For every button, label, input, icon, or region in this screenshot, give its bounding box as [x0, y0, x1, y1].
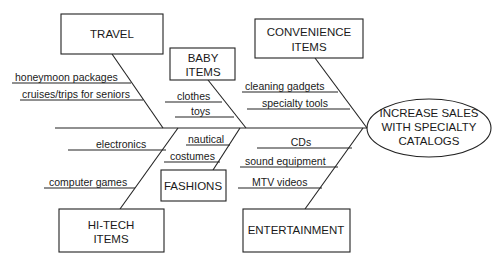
category-hi-tech-items: HI-TECH ITEMS electronics computer games [44, 128, 178, 252]
category-label-hi-tech-2: ITEMS [93, 233, 128, 245]
cause-label: CDs [291, 136, 311, 148]
category-label-fashions: FASHIONS [164, 180, 222, 192]
category-fashions: FASHIONS nautical costumes [161, 128, 240, 201]
category-travel: TRAVEL honeymoon packages cruises/trips … [12, 14, 163, 128]
cause-label: sound equipment [245, 155, 326, 167]
cause-label: honeymoon packages [15, 71, 118, 83]
bone-entertainment [305, 128, 363, 209]
category-label-travel: TRAVEL [90, 28, 134, 40]
cause-label: cleaning gadgets [245, 80, 324, 92]
category-label-convenience-2: ITEMS [291, 41, 326, 53]
category-convenience-items: CONVENIENCE ITEMS cleaning gadgets speci… [242, 19, 367, 128]
category-label-baby-items-1: BABY [188, 52, 219, 64]
effect-line-2: WITH SPECIALTY [382, 121, 477, 133]
cause-label: electronics [96, 138, 146, 150]
bone-baby-items [208, 80, 246, 128]
cause-label: computer games [49, 176, 127, 188]
cause-label: clothes [177, 90, 210, 102]
effect-head: INCREASE SALES WITH SPECIALTY CATALOGS [367, 99, 491, 157]
effect-line-3: CATALOGS [399, 135, 460, 147]
cause-label: costumes [170, 150, 215, 162]
bone-convenience-items [315, 58, 367, 128]
cause-label: nautical [188, 133, 224, 145]
category-label-hi-tech-1: HI-TECH [88, 219, 135, 231]
effect-line-1: INCREASE SALES [379, 107, 478, 119]
category-entertainment: ENTERTAINMENT CDs sound equipment MTV vi… [238, 128, 363, 252]
cause-label: toys [191, 105, 210, 117]
category-label-convenience-1: CONVENIENCE [267, 26, 352, 38]
category-label-entertainment: ENTERTAINMENT [248, 224, 345, 236]
category-baby-items: BABY ITEMS clothes toys [165, 48, 246, 128]
cause-label: MTV videos [252, 176, 307, 188]
fishbone-diagram: INCREASE SALES WITH SPECIALTY CATALOGS T… [0, 0, 499, 264]
category-label-baby-items-2: ITEMS [185, 66, 220, 78]
cause-label: cruises/trips for seniors [22, 88, 130, 100]
cause-label: specialty tools [262, 97, 328, 109]
